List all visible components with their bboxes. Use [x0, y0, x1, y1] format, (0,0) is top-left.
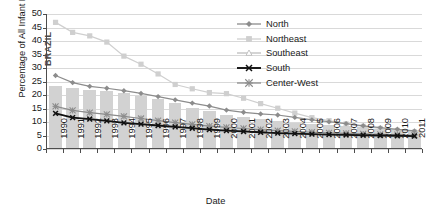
legend-label: North	[262, 19, 289, 29]
data-point	[87, 84, 92, 89]
data-point	[53, 73, 58, 78]
data-point	[246, 36, 252, 42]
x-axis-tick-mark	[63, 149, 64, 153]
chart-container: Percentage of All Infant Deaths BRAZIL 5…	[0, 0, 431, 218]
data-point	[104, 86, 109, 91]
legend-label: Southeast	[262, 48, 308, 58]
data-point	[121, 113, 127, 119]
data-point	[121, 54, 126, 59]
y-axis-tick-mark	[43, 82, 46, 83]
data-point	[224, 91, 229, 96]
x-axis-title: Date	[0, 196, 431, 206]
data-point	[155, 71, 160, 76]
y-axis-tick-label: 45	[12, 23, 42, 32]
legend-item-north[interactable]: North	[236, 17, 376, 32]
x-axis-tick-mark	[251, 149, 252, 153]
y-axis-tick-mark	[43, 28, 46, 29]
data-point	[173, 82, 178, 87]
x-axis-tick-mark	[388, 149, 389, 153]
data-point	[53, 20, 58, 25]
legend-item-center-west[interactable]: Center-West	[236, 75, 376, 90]
data-point	[87, 33, 92, 38]
y-axis-tick-label: 25	[12, 77, 42, 86]
y-axis-tick-label: 30	[12, 63, 42, 72]
legend-marker-icon	[236, 18, 262, 30]
legend-label: South	[262, 63, 290, 73]
data-point	[241, 96, 246, 101]
x-axis-tick-mark	[166, 149, 167, 153]
y-axis-tick-label: 20	[12, 90, 42, 99]
data-point	[207, 90, 212, 95]
x-axis-tick-mark	[131, 149, 132, 153]
x-axis-tick-mark	[200, 149, 201, 153]
data-point	[258, 101, 263, 106]
legend-marker-icon	[236, 47, 262, 59]
y-axis-tick-mark	[43, 68, 46, 69]
data-point	[87, 110, 93, 116]
data-point	[70, 80, 75, 85]
data-point	[138, 62, 143, 67]
x-axis-tick-mark	[217, 149, 218, 153]
y-axis-tick-mark	[43, 136, 46, 137]
data-point	[121, 88, 126, 93]
data-point	[104, 39, 109, 44]
x-axis-tick-mark	[268, 149, 269, 153]
data-point	[155, 94, 160, 99]
x-axis-tick-mark	[80, 149, 81, 153]
y-axis-tick-mark	[43, 41, 46, 42]
data-point	[138, 91, 143, 96]
legend-item-southeast[interactable]: Southeast	[236, 46, 376, 61]
data-point	[190, 100, 195, 105]
data-point	[104, 111, 110, 117]
legend-marker-icon	[236, 33, 262, 45]
data-point	[70, 30, 75, 35]
data-point	[241, 110, 246, 115]
y-axis-tick-label: 10	[12, 117, 42, 126]
data-point	[246, 21, 252, 27]
legend-item-northeast[interactable]: Northeast	[236, 32, 376, 47]
y-axis-tick-mark	[43, 122, 46, 123]
y-axis-tick-label: 35	[12, 50, 42, 59]
x-axis-tick-mark	[114, 149, 115, 153]
data-point	[53, 103, 59, 109]
legend-label: Center-West	[262, 78, 318, 88]
y-axis-tick-mark	[43, 14, 46, 15]
chart-legend: NorthNortheastSoutheastSouthCenter-West	[236, 17, 376, 90]
x-axis-tick-mark	[149, 149, 150, 153]
y-axis-tick-mark	[43, 55, 46, 56]
data-point	[245, 79, 253, 87]
x-axis-tick-mark	[234, 149, 235, 153]
y-axis-tick-label: 0	[12, 144, 42, 153]
x-axis-tick-mark	[354, 149, 355, 153]
x-axis-tick-mark	[371, 149, 372, 153]
legend-item-south[interactable]: South	[236, 61, 376, 76]
legend-label: Northeast	[262, 34, 306, 44]
data-point	[70, 107, 76, 113]
x-axis-tick-mark	[285, 149, 286, 153]
data-point	[172, 97, 177, 102]
data-point	[258, 111, 263, 116]
x-axis-tick-mark	[183, 149, 184, 153]
x-axis-tick-mark	[405, 149, 406, 153]
data-point	[224, 107, 229, 112]
legend-marker-icon	[236, 77, 262, 89]
data-point	[275, 106, 280, 111]
x-axis-tick-mark	[319, 149, 320, 153]
data-point	[190, 86, 195, 91]
data-point	[275, 112, 280, 117]
x-axis-tick-mark	[97, 149, 98, 153]
x-axis-tick-mark	[46, 149, 47, 153]
x-axis-tick-mark	[302, 149, 303, 153]
data-point	[207, 103, 212, 108]
x-axis-tick-mark	[337, 149, 338, 153]
y-axis-tick-label: 5	[12, 131, 42, 140]
y-axis-tick-label: 40	[12, 36, 42, 45]
y-axis-tick-label: 15	[12, 104, 42, 113]
y-axis-tick-label: 50	[12, 9, 42, 18]
legend-marker-icon	[236, 62, 262, 74]
y-axis-tick-mark	[43, 95, 46, 96]
y-axis-tick-mark	[43, 109, 46, 110]
x-axis-tick-mark	[422, 149, 423, 153]
